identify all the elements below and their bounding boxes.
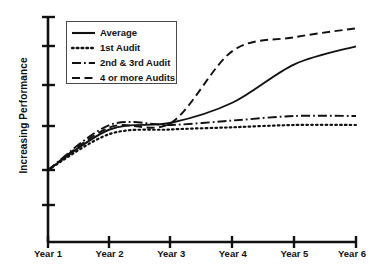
legend-swatch-dashed xyxy=(71,73,96,83)
legend-item: 2nd & 3rd Audit xyxy=(71,55,170,70)
x-tick-label: Year 4 xyxy=(219,248,247,259)
x-tick-label: Year 3 xyxy=(157,248,185,259)
x-tick-label: Year 5 xyxy=(280,248,308,259)
x-tick-label: Year 1 xyxy=(34,248,62,259)
x-tick-label: Year 6 xyxy=(338,248,366,259)
plot-area xyxy=(0,0,375,275)
series-line xyxy=(48,116,356,170)
legend-swatch-dotted xyxy=(71,43,96,53)
legend-label: 2nd & 3rd Audit xyxy=(100,58,170,68)
performance-line-chart: Increasing Performance Year 1Year 2Year … xyxy=(0,0,375,275)
legend-swatch-solid xyxy=(71,28,96,38)
legend-label: 1st Audit xyxy=(100,43,140,53)
x-tick-label: Year 2 xyxy=(96,248,124,259)
chart-legend: Average1st Audit2nd & 3rd Audit4 or more… xyxy=(66,21,177,84)
series-line xyxy=(48,125,356,170)
legend-label: 4 or more Audits xyxy=(100,73,175,83)
x-axis-tick-labels: Year 1Year 2Year 3Year 4Year 5Year 6 xyxy=(0,248,375,266)
legend-item: Average xyxy=(71,25,137,40)
legend-swatch-dash-dot xyxy=(71,58,96,68)
legend-item: 4 or more Audits xyxy=(71,70,175,85)
legend-label: Average xyxy=(100,28,137,38)
legend-item: 1st Audit xyxy=(71,40,140,55)
